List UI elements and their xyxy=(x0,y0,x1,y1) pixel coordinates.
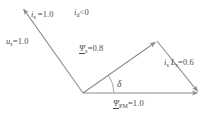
angle-arc-delta xyxy=(108,75,114,93)
label-delta: δ xyxy=(117,80,122,90)
label-psi-pm: ΨPM=1.0 xyxy=(113,99,144,108)
phasor-diagram: is =1.0 id<0 us=1.0 Ψs=0.8 is Ls=0.6 δ Ψ… xyxy=(0,0,218,119)
label-i-d: id<0 xyxy=(74,8,89,17)
label-is-ls: is Ls=0.6 xyxy=(164,58,194,67)
label-u-s: us=1.0 xyxy=(6,37,29,46)
vector-u-s xyxy=(24,9,83,93)
label-psi-s: Ψs=0.8 xyxy=(79,44,103,53)
label-i-s-top: is =1.0 xyxy=(31,10,54,19)
